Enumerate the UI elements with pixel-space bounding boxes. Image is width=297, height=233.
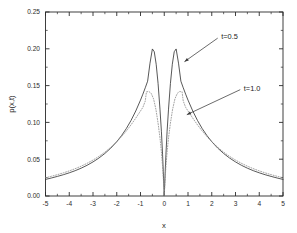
figure-background bbox=[0, 0, 297, 233]
annotation-label-t-1-0: t=1.0 bbox=[244, 84, 261, 93]
x-tick-label: 0 bbox=[162, 200, 166, 207]
y-tick-label: 0.15 bbox=[27, 82, 40, 89]
x-tick-label: 4 bbox=[257, 200, 261, 207]
x-tick-label: 3 bbox=[234, 200, 238, 207]
x-tick-label: 1 bbox=[186, 200, 190, 207]
x-tick-label: -3 bbox=[90, 200, 96, 207]
y-tick-label: 0.25 bbox=[27, 8, 40, 15]
y-axis-title: p(x,t) bbox=[7, 95, 16, 113]
x-tick-label: -1 bbox=[138, 200, 144, 207]
y-tick-label: 0.00 bbox=[27, 192, 40, 199]
x-tick-label: -5 bbox=[43, 200, 49, 207]
chart-figure: -5-4-3-2-1012345 0.000.050.100.150.200.2… bbox=[0, 0, 297, 233]
x-tick-label: -2 bbox=[114, 200, 120, 207]
annotation-label-t-0-5: t=0.5 bbox=[221, 32, 238, 41]
y-tick-label: 0.10 bbox=[27, 119, 40, 126]
y-tick-label: 0.05 bbox=[27, 156, 40, 163]
y-tick-label: 0.20 bbox=[27, 45, 40, 52]
x-tick-label: 5 bbox=[281, 200, 285, 207]
x-tick-label: 2 bbox=[210, 200, 214, 207]
plot-area: -5-4-3-2-1012345 0.000.050.100.150.200.2… bbox=[0, 0, 297, 233]
x-axis-title: x bbox=[162, 221, 166, 230]
x-tick-label: -4 bbox=[66, 200, 72, 207]
